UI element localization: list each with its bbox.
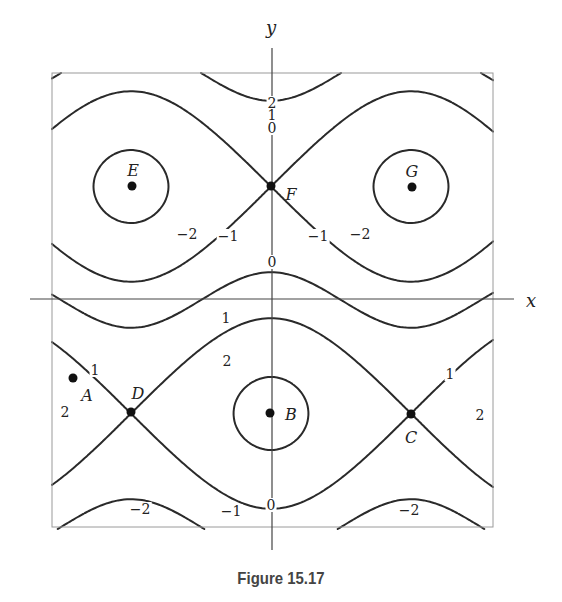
point-c-marker: [407, 410, 416, 419]
y-axis-label: y: [266, 17, 276, 38]
point-label-f: F: [285, 185, 296, 204]
contour-value-label: 0: [267, 255, 278, 269]
figure-caption: Figure 15.17: [34, 569, 529, 589]
contour-value-label: −2: [176, 227, 199, 241]
contour-value-label: −1: [220, 504, 243, 518]
contour-plot: [0, 0, 562, 602]
critical-points: [69, 182, 417, 419]
point-b-marker: [266, 409, 275, 418]
contour-value-label: −2: [349, 227, 372, 241]
contour-value-label: −2: [129, 502, 152, 516]
contour-value-label: −1: [217, 229, 240, 243]
point-label-e: E: [127, 161, 139, 180]
contour-value-label: 1: [90, 363, 101, 377]
contour-value-label: 1: [445, 367, 456, 381]
contour-value-label: 0: [267, 121, 278, 135]
point-f-marker: [267, 182, 276, 191]
contour-value-label: 2: [60, 405, 71, 419]
contour-value-label: −2: [398, 503, 421, 517]
point-d-marker: [127, 408, 136, 417]
point-label-b: B: [285, 405, 297, 424]
contour-value-label: 2: [475, 408, 486, 422]
point-g-marker: [408, 183, 417, 192]
point-label-d: D: [132, 384, 145, 403]
contour-value-label: 0: [266, 498, 277, 512]
point-label-a: A: [81, 386, 93, 405]
x-axis-label: x: [526, 290, 536, 311]
point-a-marker: [69, 374, 78, 383]
contour-value-label: 1: [221, 311, 232, 325]
point-label-c: C: [405, 428, 417, 447]
point-label-g: G: [406, 162, 419, 181]
contour-value-label: 2: [222, 354, 233, 368]
contour-value-label: −1: [307, 229, 330, 243]
point-e-marker: [128, 182, 137, 191]
